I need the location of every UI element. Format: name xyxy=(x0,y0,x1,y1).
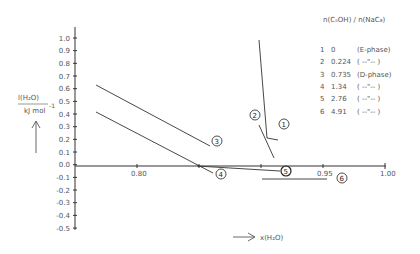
svg-text:2: 2 xyxy=(253,112,257,120)
legend-row-text: ( --"-- ) xyxy=(357,83,381,91)
legend-row-text: 1 xyxy=(320,46,324,54)
legend-row-text: 3 xyxy=(320,71,324,79)
svg-text:-1: -1 xyxy=(49,102,55,109)
x-tick-label: 1.00 xyxy=(380,170,396,178)
svg-text:x(H₂O): x(H₂O) xyxy=(260,234,283,242)
legend-row-text: 4 xyxy=(320,83,325,91)
legend-row-text: 1.34 xyxy=(331,83,347,91)
legend-row-text: 0.735 xyxy=(331,71,351,79)
chart-canvas: 1.00.90.80.70.60.50.40.30.20.10.0-0.1-0.… xyxy=(0,0,420,254)
data-lines xyxy=(96,40,327,179)
y-tick-label: 0.7 xyxy=(59,73,70,81)
y-tick-label: 0.2 xyxy=(59,136,70,144)
y-tick-label: 0.1 xyxy=(59,149,70,157)
series-3-line xyxy=(96,85,210,146)
legend-row-text: 2.76 xyxy=(331,95,347,103)
x-tick-label: 0.95 xyxy=(317,170,333,178)
series-5-line xyxy=(197,166,280,171)
legend-row-text: 0.224 xyxy=(331,58,352,66)
legend-row-text: 2 xyxy=(320,58,324,66)
y-axis-label: l(H₂O) kJ mol -1 xyxy=(18,94,55,153)
x-ticks: 0.80 0.95 1.00 xyxy=(131,163,396,178)
marker-5: 5 xyxy=(281,166,291,176)
svg-text:l(H₂O): l(H₂O) xyxy=(18,94,39,102)
legend-title: n(C₅OH) / n(NaC₈) xyxy=(323,16,386,24)
legend-row-text: ( --"-- ) xyxy=(357,95,381,103)
y-tick-label: 0.8 xyxy=(59,60,70,68)
marker-4: 4 xyxy=(216,169,226,179)
marker-1: 1 xyxy=(279,119,289,129)
y-tick-label: 1.0 xyxy=(59,35,70,43)
marker-6: 6 xyxy=(337,173,347,183)
legend-row-text: 5 xyxy=(320,95,324,103)
y-tick-label: -0.1 xyxy=(56,174,70,182)
svg-text:5: 5 xyxy=(284,168,288,176)
svg-text:3: 3 xyxy=(215,138,219,146)
y-tick-label: 0.0 xyxy=(59,161,70,169)
y-tick-label: 0.3 xyxy=(59,123,70,131)
legend: n(C₅OH) / n(NaC₈) 10(E-phase)20.224( --"… xyxy=(320,16,392,116)
marker-3: 3 xyxy=(212,136,222,146)
y-tick-label: 0.6 xyxy=(59,85,71,93)
y-tick-label: 0.5 xyxy=(59,98,70,106)
svg-text:1: 1 xyxy=(282,121,286,129)
y-tick-label: -0.3 xyxy=(56,199,70,207)
series-4-line xyxy=(96,112,213,173)
svg-text:6: 6 xyxy=(340,175,345,183)
svg-text:kJ mol: kJ mol xyxy=(24,107,45,115)
svg-text:4: 4 xyxy=(219,171,224,179)
legend-row-text: ( --"-- ) xyxy=(357,58,381,66)
y-ticks: 1.00.90.80.70.60.50.40.30.20.10.0-0.1-0.… xyxy=(56,35,77,233)
y-tick-label: 0.4 xyxy=(59,111,71,119)
legend-row-text: (D-phase) xyxy=(357,71,392,79)
y-tick-label: -0.2 xyxy=(56,187,70,195)
legend-row-text: (E-phase) xyxy=(357,46,391,54)
legend-row-text: 4.91 xyxy=(331,108,347,116)
legend-row-text: 0 xyxy=(331,46,335,54)
y-tick-label: -0.5 xyxy=(56,225,70,233)
series-1-line xyxy=(259,40,278,140)
y-tick-label: 0.9 xyxy=(59,47,70,55)
legend-row-text: 6 xyxy=(320,108,325,116)
x-axis-label: x(H₂O) xyxy=(233,233,283,242)
marker-2: 2 xyxy=(250,110,260,120)
legend-row-text: ( --"-- ) xyxy=(357,108,381,116)
x-tick-label: 0.80 xyxy=(131,170,147,178)
y-tick-label: -0.4 xyxy=(56,212,70,220)
